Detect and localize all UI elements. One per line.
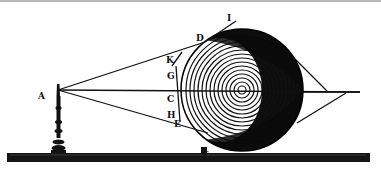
label-a: A (37, 91, 46, 101)
label-f: F (202, 150, 209, 160)
label-k: K (166, 55, 175, 65)
label-c: C (167, 94, 174, 104)
optics-diagram: A I D K G C H E F (0, 0, 381, 176)
label-d: D (196, 33, 204, 43)
label-i: I (227, 13, 231, 23)
ground-bar (7, 153, 370, 162)
candle-icon (51, 84, 66, 153)
sphere-icon (178, 28, 312, 152)
label-e: E (174, 119, 181, 129)
label-g: G (167, 71, 175, 81)
